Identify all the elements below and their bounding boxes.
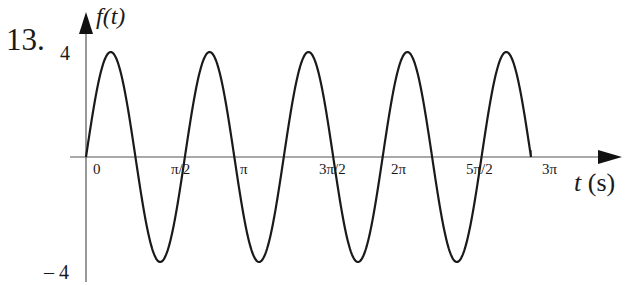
x-tick-5pi-over-2: 5π/2 bbox=[466, 162, 493, 177]
y-tick-neg4: – 4 bbox=[44, 262, 69, 282]
plot-canvas bbox=[0, 0, 630, 285]
y-axis-arrow-icon bbox=[79, 12, 93, 34]
y-axis-label: f(t) bbox=[96, 4, 125, 28]
x-axis-label: t (s) bbox=[574, 170, 615, 196]
x-tick-0: 0 bbox=[93, 162, 101, 177]
x-axis-arrow-icon bbox=[598, 150, 622, 164]
x-axis-unit: (s) bbox=[581, 168, 615, 197]
y-tick-4: 4 bbox=[60, 43, 70, 63]
x-tick-3pi-over-2: 3π/2 bbox=[319, 162, 346, 177]
x-tick-2pi: 2π bbox=[391, 162, 406, 177]
x-tick-pi: π bbox=[240, 162, 248, 177]
x-tick-3pi: 3π bbox=[542, 162, 557, 177]
x-tick-pi-over-2: π/2 bbox=[171, 162, 190, 177]
problem-number: 13. bbox=[6, 24, 45, 55]
